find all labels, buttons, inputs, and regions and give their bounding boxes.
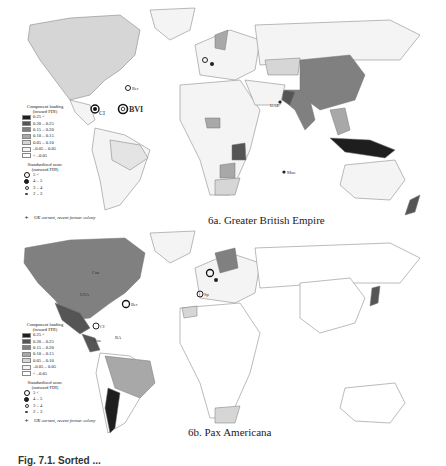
filled-ring-icon [22, 178, 31, 184]
map-label: Mau [287, 170, 295, 175]
legend-label: 5 < [33, 390, 39, 396]
map-legend-a: Component loading (inward FDI) 0.25 < 0.… [22, 104, 68, 197]
legend-swatch [22, 134, 31, 139]
legend-label: 3 – 4 [33, 403, 42, 409]
legend-title: Standardized score (outward FDI) [22, 380, 68, 390]
map-legend-b: Component loading (inward FDI) 0.25 < 0.… [22, 322, 96, 425]
legend-title: Component loading (inward FDI) [22, 104, 68, 114]
legend-label: 2 – 3 [33, 191, 42, 197]
legend-label: 0.05 – 0.10 [33, 358, 54, 364]
map-label: Sp [204, 292, 209, 297]
legend-label: 0.25 < [33, 114, 45, 120]
legend-swatch [22, 345, 31, 350]
large-ring-icon [22, 172, 31, 178]
legend-label: 4 – 5 [33, 396, 42, 402]
legend-label: 0.15 – 0.20 [33, 127, 54, 133]
legend-swatch [22, 127, 31, 132]
map-label: BVI [129, 105, 143, 114]
legend-swatch [22, 365, 31, 370]
panel-title: 6a. Greater British Empire [208, 214, 325, 226]
legend-swatch [22, 333, 31, 338]
plus-icon: + [22, 215, 31, 221]
map-panel-greater-british-empire: BVI CI Ber UAE Mau Component loading (in… [0, 0, 446, 228]
legend-label: < –0.05 [33, 153, 47, 159]
legend-label: 2 – 3 [33, 409, 42, 415]
legend-swatch [22, 358, 31, 363]
legend-note-a: +UK current, recent former colony [22, 215, 96, 221]
legend-label: 0.10 – 0.15 [33, 351, 54, 357]
star-icon [22, 409, 31, 415]
legend-label: 0.25 < [33, 332, 45, 338]
legend-label: 4 – 5 [33, 178, 42, 184]
legend-label: 0.20 – 0.25 [33, 121, 54, 127]
panel-title: 6b. Pax Americana [188, 426, 271, 438]
map-label: Can [92, 270, 99, 275]
map-label: Ber [131, 302, 138, 307]
legend-swatch [22, 147, 31, 152]
legend-title: Component loading (inward FDI) [22, 322, 68, 332]
legend-label: –0.05 – 0.05 [33, 146, 56, 152]
legend-label: 3 – 4 [33, 185, 42, 191]
map-label: UAE [270, 103, 279, 108]
filled-ring-icon [22, 396, 31, 402]
map-label: CI [100, 324, 105, 329]
legend-title: Standardized score (outward FDI) [22, 162, 68, 172]
star-icon [22, 191, 31, 197]
legend-label: –0.05 – 0.05 [33, 364, 56, 370]
map-label: BA [115, 335, 121, 340]
map-label: CI [99, 110, 105, 116]
map-panel-pax-americana: Can USA Ber CI Pan BA Sp Component loadi… [0, 228, 446, 448]
legend-label: 0.05 – 0.10 [33, 140, 54, 146]
legend-label: 5 < [33, 172, 39, 178]
legend-note: UK current, recent former colony [34, 215, 96, 221]
plus-icon: + [22, 418, 31, 424]
figure-caption: Fig. 7.1. Sorted ... [18, 455, 101, 466]
legend-label: 0.15 – 0.20 [33, 345, 54, 351]
legend-label: 0.20 – 0.25 [33, 339, 54, 345]
legend-swatch [22, 140, 31, 145]
legend-swatch [22, 352, 31, 357]
legend-label: < –0.05 [33, 371, 47, 377]
legend-swatch [22, 153, 31, 158]
small-ring-icon [22, 403, 31, 409]
legend-swatch [22, 339, 31, 344]
small-ring-icon [22, 185, 31, 191]
map-label: USA [80, 292, 89, 297]
legend-swatch [22, 115, 31, 120]
legend-swatch [22, 371, 31, 376]
legend-label: 0.10 – 0.15 [33, 133, 54, 139]
legend-note: UK current, recent former colony [34, 418, 96, 424]
map-label: Ber [132, 86, 139, 91]
legend-swatch [22, 121, 31, 126]
large-ring-icon [22, 390, 31, 396]
